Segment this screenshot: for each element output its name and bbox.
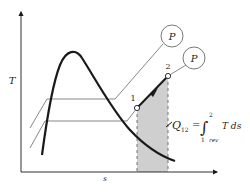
state-point-1 <box>134 105 139 110</box>
isobar-lower-vapor-ext <box>168 65 186 76</box>
pressure-label-lower: P <box>190 53 198 64</box>
equation-q-subscript: 12 <box>181 126 189 133</box>
y-axis-label: T <box>9 75 17 86</box>
equation-lower-subscript: rev <box>209 137 219 143</box>
state-point-2 <box>165 73 170 78</box>
equation-q: Q <box>172 119 181 132</box>
isobar-upper-liquid <box>30 99 47 128</box>
ts-diagram: P P T s 1 2 Q 12 = ∫ 2 1 rev T ds <box>0 0 250 192</box>
point-1-label: 1 <box>130 94 135 103</box>
equation-integral: ∫ <box>200 118 208 137</box>
equation-integrand: T ds <box>222 121 242 131</box>
pressure-label-upper: P <box>168 31 176 42</box>
x-axis-label: s <box>103 175 107 183</box>
equation-upper-limit: 2 <box>209 111 213 118</box>
point-2-label: 2 <box>165 62 170 71</box>
equation-lower-limit: 1 <box>201 136 205 143</box>
heat-equation: Q 12 = ∫ 2 1 rev T ds <box>166 111 242 143</box>
heat-area <box>137 76 168 172</box>
